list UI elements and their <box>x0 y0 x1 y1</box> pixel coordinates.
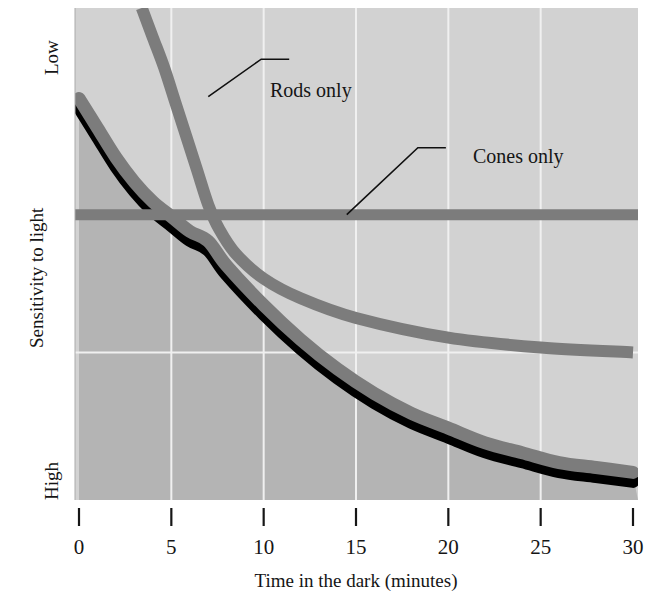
x-axis-tick-label: 25 <box>530 535 551 559</box>
x-axis-tick-label: 30 <box>623 535 644 559</box>
x-axis-tick-label: 15 <box>346 535 367 559</box>
x-axis-tick-label: 5 <box>166 535 177 559</box>
x-axis-title: Time in the dark (minutes) <box>255 570 458 592</box>
cones-only-label: Cones only <box>473 145 564 168</box>
x-axis-tick-label: 0 <box>74 535 85 559</box>
chart-canvas: Rods only Cones only 051015202530 Time i… <box>0 0 660 604</box>
x-axis-tick-labels: 051015202530 <box>74 535 644 559</box>
y-axis-low-label: Low <box>41 40 62 75</box>
dark-adaptation-chart: Rods only Cones only 051015202530 Time i… <box>0 0 660 604</box>
y-axis-high-label: High <box>41 462 62 501</box>
x-axis-tick-label: 20 <box>438 535 459 559</box>
rods-only-label: Rods only <box>270 79 352 102</box>
y-axis-title: Sensitivity to light <box>26 207 47 348</box>
x-axis-tick-label: 10 <box>253 535 274 559</box>
x-axis-ticks <box>79 508 633 526</box>
